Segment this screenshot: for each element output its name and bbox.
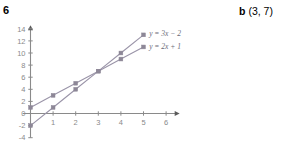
y-tick-label: 10 [17, 49, 25, 58]
data-point-marker [119, 57, 123, 61]
equation-label-layer: y = 3x − 2y = 2x + 1 [148, 29, 181, 51]
figure-root: 6 b(3, 7) 123456-4-202468101214 y = 3x −… [0, 0, 286, 145]
y-tick-label: 8 [21, 61, 25, 70]
line-graph: 123456-4-202468101214 y = 3x − 2y = 2x +… [0, 0, 286, 145]
y-tick-label: -4 [19, 133, 26, 142]
tick-label-layer: 123456-4-202468101214 [17, 25, 168, 143]
y-tick-label: 12 [17, 37, 25, 46]
data-point-marker [29, 124, 33, 128]
series-layer [31, 35, 144, 126]
data-point-marker [74, 81, 78, 85]
data-point-marker [29, 106, 33, 110]
y-tick-label: 14 [17, 25, 25, 34]
data-point-marker [142, 33, 146, 37]
x-tick-label: 5 [141, 118, 145, 127]
data-point-marker [51, 93, 55, 97]
series-equation-label: y = 3x − 2 [148, 29, 181, 38]
y-axis-arrowhead [28, 25, 33, 30]
data-point-marker [51, 106, 55, 110]
series-equation-label: y = 2x + 1 [148, 42, 181, 51]
y-tick-label: 6 [21, 73, 25, 82]
x-tick-label: 4 [119, 118, 123, 127]
data-point-marker [119, 51, 123, 55]
x-tick-label: 1 [51, 118, 55, 127]
y-tick-label: 4 [21, 85, 25, 94]
x-tick-label: 6 [164, 118, 168, 127]
y-tick-label: 0 [21, 109, 25, 118]
series-line [31, 47, 144, 107]
y-tick-label: -2 [19, 121, 26, 130]
data-point-marker [96, 69, 100, 73]
series-line [31, 35, 144, 126]
y-tick-label: 2 [21, 97, 25, 106]
data-point-marker [74, 87, 78, 91]
data-point-marker [142, 45, 146, 49]
x-tick-label: 3 [96, 118, 100, 127]
x-tick-label: 2 [74, 118, 78, 127]
x-axis-arrowhead [175, 111, 180, 116]
